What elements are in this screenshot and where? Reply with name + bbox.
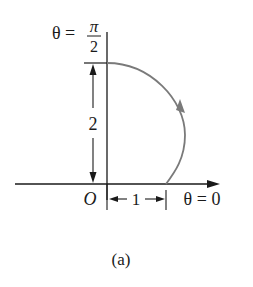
horizontal-dimension-arrow-right-icon bbox=[156, 196, 165, 202]
theta-pi-over-2-lhs: θ = bbox=[52, 23, 75, 43]
vertical-dimension-arrow-up-icon bbox=[90, 64, 97, 75]
polar-curve bbox=[107, 63, 185, 184]
pi-numerator: π bbox=[90, 17, 99, 36]
origin-label: O bbox=[84, 189, 97, 209]
vertical-dimension-arrow-down-icon bbox=[90, 172, 97, 183]
radius-label-2: 2 bbox=[89, 114, 98, 134]
two-denominator: 2 bbox=[90, 38, 98, 55]
figure-caption: (a) bbox=[112, 250, 131, 269]
radius-label-1: 1 bbox=[132, 190, 141, 209]
theta-zero-label: θ = 0 bbox=[184, 189, 221, 209]
polar-diagram: 2 1 O θ = 0 θ = π 2 (a) bbox=[0, 0, 253, 287]
horizontal-axis-arrowhead-icon bbox=[207, 180, 220, 188]
